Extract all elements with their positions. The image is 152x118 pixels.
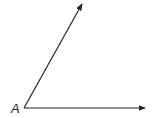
- angle-diagram: A: [0, 0, 152, 118]
- vertex-label: A: [10, 101, 20, 116]
- upper-ray: [24, 4, 82, 108]
